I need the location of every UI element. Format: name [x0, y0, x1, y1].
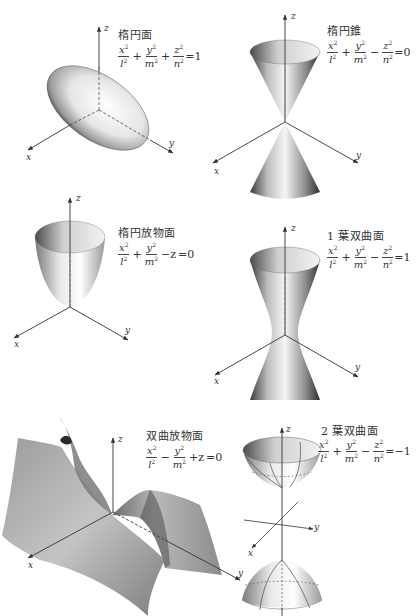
equation: x2l2 + y2m2 − z2n2 =1 [326, 245, 411, 270]
figure-hyperbolic-paraboloid: z x y 双曲放物面 x2l2 − y2m2 +z =0 [0, 400, 250, 616]
figure-title: 楕円放物面 [118, 224, 176, 240]
figure-title: 楕円面 [118, 26, 153, 42]
figure-title: 1 葉双曲面 [327, 227, 385, 243]
x-axis [252, 502, 298, 548]
x-axis-label: x [28, 560, 33, 570]
figure-title: 2 葉双曲面 [321, 422, 379, 438]
z-axis-label: z [118, 434, 123, 444]
x-axis [28, 125, 70, 150]
y-axis-label: y [169, 138, 174, 148]
x-axis-label: x [214, 166, 219, 176]
figure-hyperboloid-two-sheets: z x y 2 葉双曲面 x2l2 + y2m2 − z2n2 =−1 [240, 420, 419, 616]
figure-title: 双曲放物面 [146, 427, 204, 443]
x-axis-label: x [248, 548, 253, 558]
saddle-diagram [0, 400, 250, 616]
figure-elliptic-cone: z x y 楕円錐 x2l2 + y2m2 − z2n2 =0 [210, 0, 419, 200]
paraboloid-diagram [0, 180, 210, 370]
y-axis-label: y [125, 325, 130, 335]
equation: x2l2 + y2m2 −z =0 [117, 242, 194, 267]
x-axis-label: x [14, 339, 19, 349]
equation: x2l2 + y2m2 + z2n2 =1 [117, 44, 202, 69]
figure-hyperboloid-one-sheet: z x y 1 葉双曲面 x2l2 + y2m2 − z2n2 =1 [210, 200, 419, 400]
hyperboloid-one-sheet-diagram [210, 200, 419, 400]
z-axis-label: z [291, 11, 296, 21]
figure-elliptic-paraboloid: z x y 楕円放物面 x2l2 + y2m2 −z =0 [0, 180, 210, 370]
z-axis-label: z [104, 23, 109, 33]
x-axis [14, 307, 70, 338]
x-axis-label: x [214, 376, 219, 386]
x-axis-label: x [26, 152, 31, 162]
y-axis [70, 307, 128, 340]
cone-diagram [210, 0, 419, 200]
z-axis-label: z [291, 223, 296, 233]
z-axis-label: z [76, 193, 81, 203]
y-axis-label: y [314, 522, 319, 532]
y-axis-label: y [355, 362, 360, 372]
figure-title: 楕円錐 [327, 22, 362, 38]
z-axis-label: z [286, 424, 291, 434]
lower-cone-surface [250, 122, 320, 199]
equation: x2l2 + y2m2 − z2n2 =−1 [317, 439, 411, 464]
equation: x2l2 + y2m2 − z2n2 =0 [326, 40, 411, 65]
y-axis-label: y [356, 150, 361, 160]
equation: x2l2 − y2m2 +z =0 [145, 445, 222, 470]
figure-ellipsoid: z x y 楕円面 x2l2 + y2m2 + z2n2 =1 [0, 0, 210, 180]
